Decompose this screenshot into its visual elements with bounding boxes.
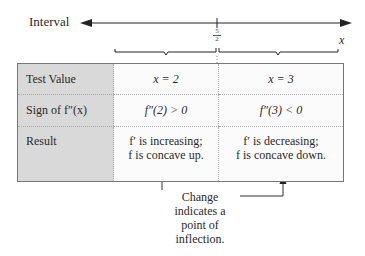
table-cell: f′ is increasing; f is concave up. xyxy=(114,127,219,182)
callout-line: point of xyxy=(160,218,240,232)
row-label: Sign of f″(x) xyxy=(18,95,114,127)
result-line: f′ is decreasing; xyxy=(219,134,343,148)
result-line: f is concave down. xyxy=(219,148,343,162)
table-row: Sign of f″(x) f″(2) > 0 f″(3) < 0 xyxy=(18,95,344,127)
row-label: Test Value xyxy=(18,64,114,95)
callout-line: inflection. xyxy=(160,232,240,246)
right-interval-brace xyxy=(219,52,338,55)
table-cell: x = 2 xyxy=(114,64,219,95)
axis-variable-label: x xyxy=(339,33,344,48)
result-line: f is concave up. xyxy=(114,148,218,162)
callout-line: Change xyxy=(160,190,240,204)
left-arrow-icon xyxy=(80,19,92,27)
left-interval-brace xyxy=(115,52,216,55)
inflection-callout: Change indicates a point of inflection. xyxy=(160,190,240,246)
split-point-fraction: 5 2 xyxy=(211,28,223,43)
sign-test-table: Test Value x = 2 x = 3 Sign of f″(x) f″(… xyxy=(17,63,344,182)
right-arrow-icon xyxy=(340,19,352,27)
table-cell: f″(2) > 0 xyxy=(114,95,219,127)
result-line: f′ is increasing; xyxy=(114,134,218,148)
table-cell: f′ is decreasing; f is concave down. xyxy=(219,127,344,182)
table-row: Test Value x = 2 x = 3 xyxy=(18,64,344,95)
table-cell: f″(3) < 0 xyxy=(219,95,344,127)
fraction-numerator: 5 xyxy=(211,28,223,35)
table-cell: x = 3 xyxy=(219,64,344,95)
callout-line: indicates a xyxy=(160,204,240,218)
table-row: Result f′ is increasing; f is concave up… xyxy=(18,127,344,182)
fraction-denominator: 2 xyxy=(211,36,223,43)
row-label: Result xyxy=(18,127,114,182)
